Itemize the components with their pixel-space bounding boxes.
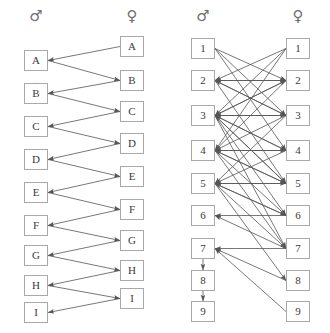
node-left-panel-female-H: H <box>120 260 144 281</box>
node-left-panel-male-I: I <box>24 302 48 323</box>
node-label: C <box>128 105 135 117</box>
node-left-panel-female-G: G <box>120 230 144 251</box>
node-left-panel-female-F: F <box>120 199 144 220</box>
node-label: G <box>128 234 136 246</box>
edge-m2-to-f5 <box>215 81 286 184</box>
edge-fF-to-mF <box>48 210 120 226</box>
node-label: D <box>128 137 136 149</box>
node-label: 7 <box>200 242 206 254</box>
node-label: 1 <box>295 42 301 54</box>
node-left-panel-male-F: F <box>24 215 48 236</box>
edge-fC-to-mC <box>48 112 120 127</box>
node-label: E <box>33 186 40 198</box>
node-left-panel-female-A: A <box>120 36 144 57</box>
node-left-panel-female-E: E <box>120 166 144 187</box>
node-label: I <box>130 292 134 304</box>
node-label: B <box>128 74 135 86</box>
node-right-panel-male-1: 1 <box>191 38 215 59</box>
node-right-panel-female-2: 2 <box>286 70 310 91</box>
node-right-panel-female-6: 6 <box>286 205 310 226</box>
node-label: 8 <box>200 274 206 286</box>
left-panel: ♂♀ABCDEFGHIABCDEFGHI <box>0 0 165 333</box>
node-right-panel-male-5: 5 <box>191 173 215 194</box>
edge-f6-to-m5 <box>215 184 286 216</box>
node-label: 1 <box>200 42 206 54</box>
edge-mG-to-fH <box>48 256 120 271</box>
node-right-panel-female-3: 3 <box>286 105 310 126</box>
male-symbol-icon: ♂ <box>25 6 47 26</box>
node-label: 3 <box>200 109 206 121</box>
node-left-panel-male-C: C <box>24 116 48 137</box>
node-right-panel-male-8: 8 <box>191 270 215 291</box>
edge-f9-to-m7 <box>215 249 286 312</box>
node-left-panel-female-C: C <box>120 101 144 122</box>
node-label: 9 <box>200 305 206 317</box>
edge-fD-to-mD <box>48 144 120 160</box>
node-label: A <box>32 54 40 66</box>
node-left-panel-male-G: G <box>24 245 48 266</box>
edge-mE-to-fF <box>48 193 120 210</box>
node-label: B <box>32 87 39 99</box>
node-label: 9 <box>295 305 301 317</box>
right-panel: ♂♀123456789123456789 <box>165 0 330 333</box>
node-label: 3 <box>295 109 301 121</box>
node-label: E <box>129 170 136 182</box>
node-left-panel-male-A: A <box>24 50 48 71</box>
node-left-panel-male-H: H <box>24 275 48 296</box>
node-left-panel-female-D: D <box>120 133 144 154</box>
edge-mB-to-fC <box>48 94 120 112</box>
node-label: F <box>33 219 39 231</box>
node-left-panel-male-D: D <box>24 149 48 170</box>
male-symbol-icon: ♂ <box>192 6 214 26</box>
node-right-panel-female-7: 7 <box>286 238 310 259</box>
node-label: F <box>129 203 135 215</box>
node-right-panel-male-7: 7 <box>191 238 215 259</box>
node-left-panel-male-B: B <box>24 83 48 104</box>
edge-mH-to-fI <box>48 286 120 299</box>
node-right-panel-male-6: 6 <box>191 205 215 226</box>
node-label: 2 <box>200 74 206 86</box>
node-label: 6 <box>295 209 301 221</box>
node-label: 8 <box>295 274 301 286</box>
node-label: G <box>32 249 40 261</box>
node-right-panel-female-5: 5 <box>286 173 310 194</box>
node-label: I <box>34 306 38 318</box>
node-right-panel-male-3: 3 <box>191 105 215 126</box>
node-label: 5 <box>200 177 206 189</box>
node-label: D <box>32 153 40 165</box>
node-label: H <box>32 279 40 291</box>
node-label: C <box>32 120 39 132</box>
node-right-panel-male-9: 9 <box>191 301 215 322</box>
figure-root: ♂♀ABCDEFGHIABCDEFGHI♂♀123456789123456789 <box>0 0 330 333</box>
edge-mC-to-fD <box>48 127 120 144</box>
node-label: A <box>128 40 136 52</box>
female-symbol-icon: ♀ <box>287 6 309 26</box>
edge-fH-to-mH <box>48 271 120 286</box>
edge-fG-to-mG <box>48 241 120 256</box>
edge-fA-to-mA <box>48 47 120 61</box>
node-right-panel-female-1: 1 <box>286 38 310 59</box>
node-right-panel-female-9: 9 <box>286 301 310 322</box>
edge-mF-to-fG <box>48 226 120 241</box>
edge-fE-to-mE <box>48 177 120 193</box>
edge-f8-to-m7 <box>215 249 286 281</box>
node-right-panel-male-4: 4 <box>191 140 215 161</box>
node-label: 4 <box>200 144 206 156</box>
node-right-panel-male-2: 2 <box>191 70 215 91</box>
node-label: H <box>128 264 136 276</box>
node-left-panel-female-B: B <box>120 70 144 91</box>
edge-m4-to-f6 <box>215 151 286 216</box>
node-left-panel-female-I: I <box>120 288 144 309</box>
node-label: 4 <box>295 144 301 156</box>
node-left-panel-male-E: E <box>24 182 48 203</box>
node-right-panel-female-4: 4 <box>286 140 310 161</box>
node-label: 5 <box>295 177 301 189</box>
node-label: 6 <box>200 209 206 221</box>
edge-m5-to-f7 <box>215 184 286 249</box>
edge-fI-to-mI <box>48 299 120 313</box>
edge-mD-to-fE <box>48 160 120 177</box>
edge-mA-to-fB <box>48 61 120 81</box>
female-symbol-icon: ♀ <box>121 6 143 26</box>
node-right-panel-female-8: 8 <box>286 270 310 291</box>
edge-fB-to-mB <box>48 81 120 94</box>
